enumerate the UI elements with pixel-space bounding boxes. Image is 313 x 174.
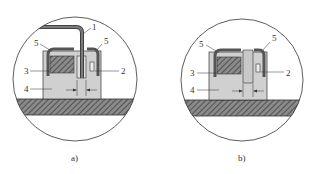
panel-a: 1 5 5 3 2 4 a) bbox=[0, 17, 160, 163]
label-4: 4 bbox=[190, 85, 195, 95]
label-2: 2 bbox=[286, 68, 291, 78]
label-5-right: 5 bbox=[104, 36, 109, 46]
label-5-left: 5 bbox=[34, 38, 39, 48]
panel-b: 5 5 3 2 4 b) bbox=[170, 19, 313, 163]
caption-a: a) bbox=[71, 153, 78, 163]
core-block bbox=[50, 56, 74, 73]
label-5-left: 5 bbox=[199, 39, 204, 49]
core-block bbox=[217, 57, 241, 74]
label-4: 4 bbox=[24, 84, 29, 94]
label-3: 3 bbox=[190, 68, 195, 78]
label-5-right: 5 bbox=[272, 33, 277, 43]
figure: 1 5 5 3 2 4 a) 5 5 3 bbox=[0, 0, 313, 174]
base-plate bbox=[0, 99, 160, 115]
label-1: 1 bbox=[92, 22, 97, 32]
caption-b: b) bbox=[238, 153, 246, 163]
label-2: 2 bbox=[121, 66, 126, 76]
label-3: 3 bbox=[24, 66, 29, 76]
